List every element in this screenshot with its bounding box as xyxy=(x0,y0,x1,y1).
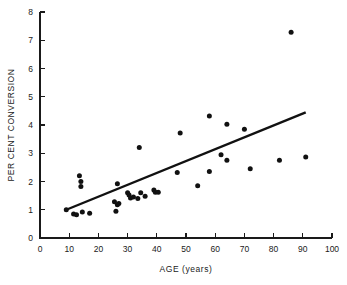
data-point xyxy=(116,201,121,206)
data-point xyxy=(195,183,200,188)
data-point xyxy=(137,145,142,150)
trend-line xyxy=(66,112,305,209)
x-tick-label: 20 xyxy=(94,244,104,254)
data-point xyxy=(175,170,180,175)
x-tick-label: 10 xyxy=(64,244,74,254)
axis-ticks xyxy=(40,12,332,238)
data-point xyxy=(80,210,85,215)
x-axis-tick-labels: 0102030405060708090100 xyxy=(38,244,340,254)
y-tick-label: 8 xyxy=(28,7,33,17)
x-tick-label: 50 xyxy=(181,244,191,254)
x-tick-label: 70 xyxy=(240,244,250,254)
data-point xyxy=(138,190,143,195)
scatter-plot-figure: 0102030405060708090100 012345678 AGE (ye… xyxy=(0,0,347,285)
data-point xyxy=(248,166,253,171)
y-tick-label: 3 xyxy=(28,148,33,158)
y-tick-label: 4 xyxy=(28,120,33,130)
y-tick-label: 1 xyxy=(28,205,33,215)
y-tick-label: 5 xyxy=(28,92,33,102)
axes xyxy=(40,12,332,238)
data-point xyxy=(74,212,79,217)
data-point xyxy=(277,158,282,163)
plot-canvas: 0102030405060708090100 012345678 AGE (ye… xyxy=(0,0,347,285)
y-tick-label: 7 xyxy=(28,35,33,45)
y-axis-tick-labels: 012345678 xyxy=(28,7,33,243)
data-point xyxy=(242,127,247,132)
data-point xyxy=(224,158,229,163)
x-tick-label: 40 xyxy=(152,244,162,254)
x-axis-title: AGE (years) xyxy=(160,264,213,274)
x-tick-label: 90 xyxy=(298,244,308,254)
data-point xyxy=(207,113,212,118)
y-tick-label: 6 xyxy=(28,64,33,74)
x-tick-label: 30 xyxy=(123,244,133,254)
data-point xyxy=(178,130,183,135)
data-point xyxy=(224,122,229,127)
data-point xyxy=(64,207,69,212)
x-tick-label: 80 xyxy=(269,244,279,254)
y-tick-label: 0 xyxy=(28,233,33,243)
data-point xyxy=(78,184,83,189)
data-point xyxy=(207,169,212,174)
y-tick-label: 2 xyxy=(28,177,33,187)
data-points xyxy=(64,30,308,217)
data-point xyxy=(156,190,161,195)
x-tick-label: 100 xyxy=(325,244,339,254)
data-point xyxy=(115,181,120,186)
data-point xyxy=(143,194,148,199)
data-point xyxy=(87,211,92,216)
y-axis-title: PER CENT CONVERSION xyxy=(6,69,16,182)
data-point xyxy=(135,196,140,201)
regression-line xyxy=(66,112,305,209)
data-point xyxy=(77,173,82,178)
data-point xyxy=(131,195,136,200)
x-tick-label: 60 xyxy=(210,244,220,254)
data-point xyxy=(303,154,308,159)
data-point xyxy=(219,152,224,157)
x-tick-label: 0 xyxy=(38,244,43,254)
data-point xyxy=(78,179,83,184)
data-point xyxy=(289,30,294,35)
data-point xyxy=(113,209,118,214)
axis-spines xyxy=(40,12,332,238)
